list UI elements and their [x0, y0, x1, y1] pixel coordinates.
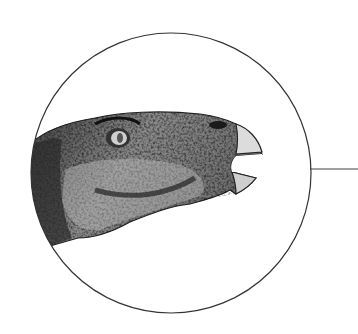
- lower-beak: [232, 172, 256, 194]
- callout-illustration: [0, 0, 358, 334]
- dinosaur-head: [20, 112, 262, 250]
- upper-beak: [236, 124, 262, 154]
- figure: [0, 0, 358, 334]
- nostril: [209, 121, 227, 129]
